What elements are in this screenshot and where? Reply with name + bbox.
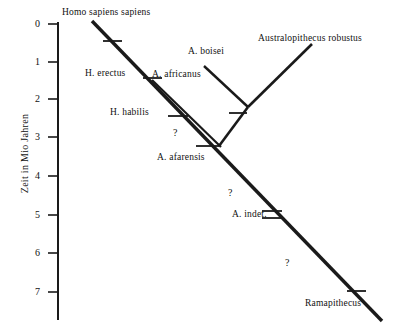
taxon-label-australopithecus-robustus: Australopithecus robustus <box>258 34 362 44</box>
taxon-label-a-afarensis: A. afarensis <box>157 153 205 163</box>
y-tick-label-2: 2 <box>26 94 40 104</box>
taxon-label-ramapithecus: Ramapithecus <box>305 299 361 309</box>
branch-a-africanus <box>152 80 221 147</box>
uncertainty-mark-habilis-afarensis: ? <box>173 128 177 138</box>
y-tick-label-0: 0 <box>26 19 40 29</box>
uncertainty-mark-indet-ramapithecus: ? <box>285 258 289 268</box>
y-tick-label-4: 4 <box>26 171 40 181</box>
y-tick-label-3: 3 <box>26 132 40 142</box>
taxon-label-homo-sapiens-sapiens: Homo sapiens sapiens <box>62 8 150 18</box>
uncertainty-mark-afarensis-indet: ? <box>228 188 232 198</box>
taxon-label-a-africanus: A. africanus <box>152 70 201 80</box>
y-tick-label-7: 7 <box>26 287 40 297</box>
y-axis-title: Zeit in Mio Jahren <box>19 94 30 214</box>
taxon-label-a-indet: A. indet. <box>232 210 267 220</box>
y-tick-label-6: 6 <box>26 248 40 258</box>
y-tick-label-1: 1 <box>26 57 40 67</box>
branch-main-lineage <box>92 21 382 321</box>
taxon-label-a-boisei: A. boisei <box>188 47 224 57</box>
y-tick-label-5: 5 <box>26 210 40 220</box>
branch-a-robustus <box>248 44 312 107</box>
taxon-label-h-habilis: H. habilis <box>110 108 149 118</box>
branch-a-boisei <box>204 66 248 107</box>
phylogeny-figure: Zeit in Mio Jahren 0 1 2 3 4 5 6 7 Homo … <box>0 0 394 333</box>
y-axis-ticks <box>48 24 58 292</box>
taxon-label-h-erectus: H. erectus <box>85 69 126 79</box>
